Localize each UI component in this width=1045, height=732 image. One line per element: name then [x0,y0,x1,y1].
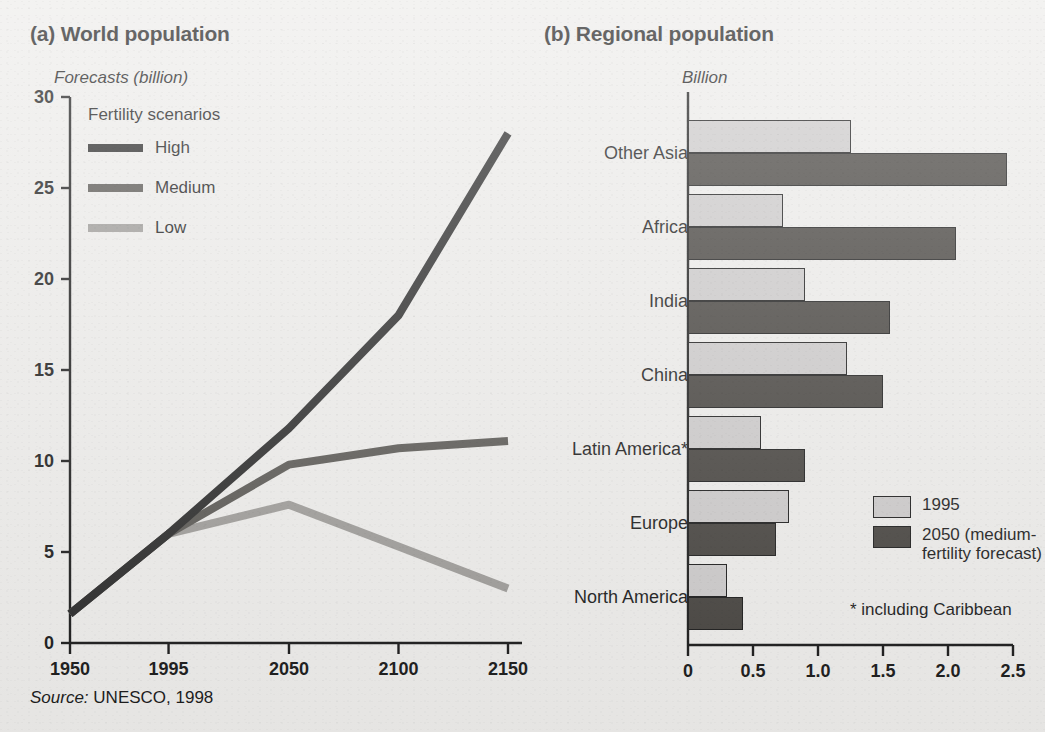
legend-item-high: High [88,138,190,158]
source-note: Source: UNESCO, 1998 [30,688,213,708]
legend-item-low: Low [88,218,186,238]
y-tick-label: 20 [12,269,54,290]
bar-india-1995 [688,268,805,301]
bar-india-2050 [688,301,890,334]
panel-regional-population: (b) Regional population Billion Other As… [520,0,1045,732]
x-tick-label: 2050 [249,659,329,680]
bar-africa-2050 [688,227,956,260]
bar-africa-1995 [688,194,783,227]
legend-item-1995: 1995 [873,495,1045,518]
legend-item-medium: Medium [88,178,215,198]
panel-world-population: (a) World population Forecasts (billion)… [0,0,530,732]
category-label: Europe [630,513,688,534]
category-label: North America [574,587,688,608]
source-prefix: Source: [30,688,89,707]
bar-china-1995 [688,342,847,375]
x-tick-label: 2100 [359,659,439,680]
bar-otherasia-1995 [688,120,851,153]
category-label: Latin America* [572,439,688,460]
y-tick-label: 0 [12,633,54,654]
bar-china-2050 [688,375,883,408]
caribbean-footnote: * including Caribbean [850,600,1012,620]
source-text: UNESCO, 1998 [93,688,213,707]
legend-swatch-icon [873,526,911,548]
legend-label: 2050 (medium-fertility forecast) [922,525,1045,563]
y-tick-label: 10 [12,451,54,472]
category-label: India [649,291,688,312]
legend-label: High [155,138,190,158]
y-tick-label: 15 [12,360,54,381]
y-tick-label: 25 [12,178,54,199]
category-label: Africa [642,217,688,238]
year-legend: 19952050 (medium-fertility forecast) [873,495,1045,570]
category-label: Other Asia [604,143,688,164]
bar-latinamerica-1995 [688,416,761,449]
legend-swatch-icon [88,184,143,192]
legend-swatch-icon [88,224,143,232]
bar-x-tick-label: 2.5 [973,661,1045,682]
bar-northamerica-2050 [688,597,743,630]
legend-label: Low [155,218,186,238]
fertility-scenarios-legend-title: Fertility scenarios [88,105,220,125]
legend-item-2050: 2050 (medium-fertility forecast) [873,525,1045,563]
bar-otherasia-2050 [688,153,1007,186]
legend-swatch-icon [873,496,911,518]
x-tick-label: 1995 [129,659,209,680]
bar-northamerica-1995 [688,564,727,597]
legend-label: 1995 [922,495,960,514]
legend-label: Medium [155,178,215,198]
y-tick-label: 30 [12,87,54,108]
bar-latinamerica-2050 [688,449,805,482]
y-tick-label: 5 [12,542,54,563]
category-label: China [641,365,688,386]
bar-europe-1995 [688,490,789,523]
x-tick-label: 1950 [30,659,110,680]
legend-swatch-icon [88,144,143,152]
bar-europe-2050 [688,523,776,556]
line-chart-svg [0,0,530,732]
